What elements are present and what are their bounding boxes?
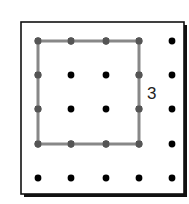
grid-dot [169, 38, 176, 45]
square-dot [136, 72, 143, 79]
grid-dot [103, 106, 110, 113]
grid-dot [169, 72, 176, 79]
grid-dot [169, 106, 176, 113]
grid-dot [35, 175, 42, 182]
grid-dot [103, 72, 110, 79]
square-dot [68, 38, 75, 45]
square-dot [103, 38, 110, 45]
square-dot [35, 106, 42, 113]
grid-dot [169, 175, 176, 182]
side-length-label: 3 [147, 84, 156, 103]
grid-dot [68, 106, 75, 113]
square-dot [136, 38, 143, 45]
square-dot [68, 141, 75, 148]
square-dot [35, 72, 42, 79]
square-dot [35, 141, 42, 148]
grid-dot [136, 175, 143, 182]
grid-dot [68, 175, 75, 182]
square-dot [35, 38, 42, 45]
square-dot [136, 141, 143, 148]
grid-dot [68, 72, 75, 79]
square-dot [136, 106, 143, 113]
grid-frame [21, 22, 184, 194]
grid-dot [103, 175, 110, 182]
square-dot [103, 141, 110, 148]
grid-dot [169, 141, 176, 148]
dot-grid-diagram: 3 [0, 0, 189, 204]
